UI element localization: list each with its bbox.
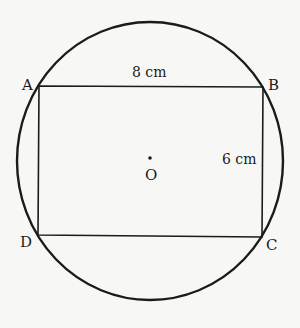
vertex-label-a: A	[22, 78, 33, 93]
vertex-label-c: C	[266, 238, 277, 253]
center-label-o: O	[145, 168, 157, 183]
geometry-figure: A B C D O 8 cm 6 cm	[0, 0, 300, 328]
vertex-label-b: B	[268, 78, 279, 93]
length-label-ab: 8 cm	[132, 65, 166, 79]
vertex-label-d: D	[20, 235, 32, 250]
center-point-o	[148, 156, 152, 160]
width-label-bc: 6 cm	[222, 152, 256, 166]
